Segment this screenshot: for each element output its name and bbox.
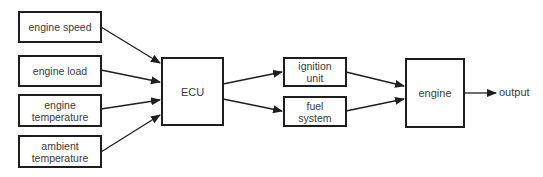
- arrow-ignition-unit-to-engine: [346, 72, 404, 86]
- arrow-engine-load-to-ecu: [101, 70, 160, 82]
- ignition-unit-box: ignition unit: [283, 57, 347, 87]
- input-box-ambient-temperature: ambient temperature: [18, 135, 102, 168]
- input-box-engine-temperature: engine temperature: [18, 94, 102, 127]
- engine-box: engine: [405, 58, 465, 128]
- arrow-fuel-system-to-engine: [346, 99, 404, 111]
- arrow-engine-temperature-to-ecu: [101, 100, 160, 109]
- ecu-block-diagram: engine speed engine load engine temperat…: [0, 0, 543, 177]
- arrow-engine-speed-to-ecu: [101, 27, 160, 63]
- arrow-ecu-to-fuel-system: [223, 99, 282, 111]
- output-label: output: [499, 86, 530, 98]
- arrow-ambient-temperature-to-ecu: [101, 115, 160, 152]
- input-box-engine-speed: engine speed: [18, 11, 102, 43]
- fuel-system-box: fuel system: [283, 96, 347, 127]
- arrow-ecu-to-ignition-unit: [223, 72, 282, 84]
- input-box-engine-load: engine load: [18, 55, 102, 87]
- ecu-box: ECU: [161, 57, 224, 126]
